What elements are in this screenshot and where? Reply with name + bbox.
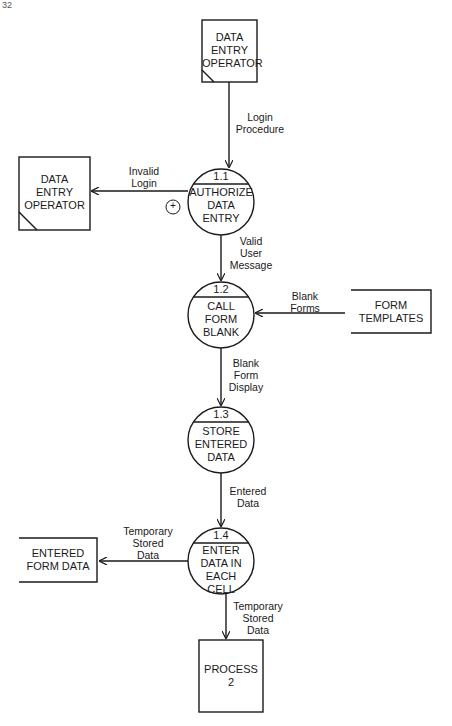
flow-label-blank-form-display: Blank Form Display: [226, 357, 266, 393]
entity-corner-mark: [19, 212, 37, 230]
flow-label-invalid-login: Invalid Login: [124, 165, 164, 189]
process-1-3-label: STORE ENTERED DATA: [188, 425, 254, 464]
process-1-4-label: ENTER DATA IN EACH CELL: [188, 544, 254, 596]
process-1-1-label: AUTHORIZE DATA ENTRY: [188, 186, 254, 225]
process2-label: PROCESS 2: [199, 663, 263, 689]
entity-corner-mark: [202, 70, 214, 82]
or-connector-symbol: +: [166, 200, 180, 212]
process-1-3-id: 1.3: [191, 408, 251, 421]
flow-label-blank-forms: Blank Forms: [285, 290, 325, 314]
process-1-1-id: 1.1: [191, 170, 251, 183]
flow-label-login-procedure: Login Procedure: [232, 111, 288, 135]
flow-label-entered-data: Entered Data: [226, 485, 270, 509]
process-1-4-id: 1.4: [191, 529, 251, 542]
process-1-2-id: 1.2: [191, 283, 251, 296]
entered-form-data-label: ENTERED FORM DATA: [19, 547, 97, 573]
flow-label-temp-stored-left: Temporary Stored Data: [118, 525, 178, 561]
operator-top-label: DATA ENTRY OPERATOR: [202, 31, 257, 70]
flow-label-temp-stored-down: Temporary Stored Data: [228, 600, 288, 636]
process-1-2-label: CALL FORM BLANK: [188, 300, 254, 339]
form-templates-label: FORM TEMPLATES: [351, 299, 431, 325]
operator-left-label: DATA ENTRY OPERATOR: [19, 173, 90, 212]
flow-label-valid-user-message: Valid User Message: [226, 235, 276, 271]
